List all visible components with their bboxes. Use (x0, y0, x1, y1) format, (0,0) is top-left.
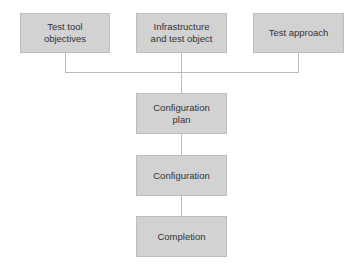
box-configuration: Configuration (136, 155, 227, 196)
connector-test-tool-objectives-down (65, 53, 66, 73)
box-test-tool-objectives: Test tool objectives (20, 13, 110, 53)
box-label: plan (153, 114, 210, 126)
connector-horizontal-merge (65, 72, 299, 73)
box-label: Configuration (153, 102, 210, 114)
box-test-approach: Test approach (253, 13, 344, 53)
box-infrastructure-and-test-object: Infrastructure and test object (136, 13, 227, 53)
box-label: and test object (151, 33, 213, 45)
connector-plan-to-configuration (181, 134, 182, 155)
box-label: Configuration (153, 170, 210, 182)
box-completion: Completion (136, 216, 227, 257)
box-label: Test tool (44, 21, 86, 33)
box-label: Infrastructure (151, 21, 213, 33)
connector-test-approach-down (298, 53, 299, 73)
connector-configuration-to-completion (181, 196, 182, 216)
box-configuration-plan: Configuration plan (136, 93, 227, 134)
connector-infrastructure-to-plan (181, 53, 182, 93)
box-label: Completion (157, 231, 205, 243)
box-label: Test approach (269, 27, 329, 39)
box-label: objectives (44, 33, 86, 45)
